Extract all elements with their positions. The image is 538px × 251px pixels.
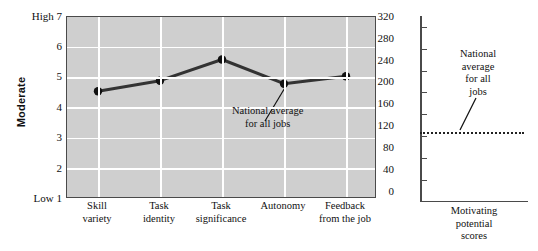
left-x-axis-labels: Skill variety Task identity Task signifi… xyxy=(66,200,376,240)
x-label-line1: Task xyxy=(143,200,175,213)
x-label-feedback: Feedback from the job xyxy=(319,200,371,225)
chart-figure: High 7 6 5 4 3 2 Low 1 Moderate xyxy=(0,0,538,251)
right-x-axis-label: Motivating potential scores xyxy=(420,205,528,243)
y-tick-1: Low 1 xyxy=(34,193,62,204)
right-y-axis-labels: 320 280 240 200 160 120 80 40 0 xyxy=(354,16,394,202)
right-annotation-svg xyxy=(420,16,528,202)
left-y-axis-labels: High 7 6 5 4 3 2 Low 1 Moderate xyxy=(0,0,62,251)
left-y-axis-title: Moderate xyxy=(15,67,27,137)
r-y-tick-120: 120 xyxy=(354,120,394,131)
r-y-tick-240: 240 xyxy=(354,55,394,66)
right-annotation-line1: National xyxy=(442,48,514,61)
gridline-h-6 xyxy=(67,47,375,49)
left-annotation: National average for all jobs xyxy=(232,105,303,130)
x-label-skill-variety: Skill variety xyxy=(82,200,111,225)
annotation-leader-line xyxy=(460,98,476,130)
y-tick-7: High 7 xyxy=(32,11,62,22)
gridline-h-4 xyxy=(67,107,375,109)
x-label-task-identity: Task identity xyxy=(143,200,175,225)
gridline-h-2 xyxy=(67,168,375,170)
right-annotation-line2: average xyxy=(442,61,514,74)
right-annotation-line4: jobs xyxy=(442,86,514,99)
y-tick-5: 5 xyxy=(57,71,63,82)
right-x-label-line2: potential xyxy=(420,218,528,231)
x-label-line2: identity xyxy=(143,213,175,226)
motivating-potential-chart: 320 280 240 200 160 120 80 40 0 xyxy=(398,0,538,251)
x-label-autonomy: Autonomy xyxy=(261,200,306,213)
r-y-tick-0: 0 xyxy=(354,186,394,197)
right-annotation: National average for all jobs xyxy=(442,48,514,98)
r-y-tick-160: 160 xyxy=(354,98,394,109)
gridline-h-3 xyxy=(67,138,375,140)
gridline-v-5 xyxy=(346,17,348,197)
x-label-line1: Autonomy xyxy=(261,200,306,213)
left-annotation-line2: for all jobs xyxy=(232,118,303,131)
r-y-tick-200: 200 xyxy=(354,76,394,87)
y-tick-4: 4 xyxy=(57,102,63,113)
right-plot-area xyxy=(420,16,528,202)
gridline-v-1 xyxy=(98,17,100,197)
r-y-tick-320: 320 xyxy=(354,11,394,22)
right-x-label-line3: scores xyxy=(420,230,528,243)
gridline-v-3 xyxy=(222,17,224,197)
y-tick-6: 6 xyxy=(57,41,63,52)
left-annotation-line1: National average xyxy=(232,105,303,118)
x-label-line1: Skill xyxy=(82,200,111,213)
y-tick-3: 3 xyxy=(57,132,63,143)
right-annotation-line3: for all xyxy=(442,73,514,86)
x-label-line1: Task xyxy=(196,200,247,213)
x-label-task-significance: Task significance xyxy=(196,200,247,225)
x-label-line2: variety xyxy=(82,213,111,226)
r-y-tick-280: 280 xyxy=(354,33,394,44)
y-tick-2: 2 xyxy=(57,163,63,174)
x-label-line2: significance xyxy=(196,213,247,226)
right-x-label-line1: Motivating xyxy=(420,205,528,218)
left-plot-area xyxy=(66,16,376,198)
job-characteristics-chart: High 7 6 5 4 3 2 Low 1 Moderate xyxy=(0,0,380,251)
r-y-tick-80: 80 xyxy=(354,142,394,153)
gridline-h-5 xyxy=(67,77,375,79)
r-y-tick-40: 40 xyxy=(354,164,394,175)
gridline-v-2 xyxy=(160,17,162,197)
x-label-line2: from the job xyxy=(319,213,371,226)
